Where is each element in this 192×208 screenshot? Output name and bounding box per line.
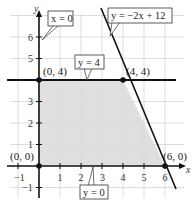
callout-label: x = 0: [51, 13, 73, 24]
point-0-0: [36, 163, 42, 169]
point-4-4: [120, 77, 126, 83]
tick-y-3: 3: [28, 96, 33, 107]
callout-label: y = 4: [78, 57, 100, 68]
label-point-0-4: (0, 4): [43, 65, 67, 78]
x-axis-arrow-icon: [179, 163, 186, 169]
tick-y-neg1: −1: [22, 182, 33, 193]
callout-y-equals-neg2x-plus-12: y = −2x + 12: [108, 8, 172, 36]
tick-y-5: 5: [28, 53, 33, 64]
callout-label: y = −2x + 12: [111, 10, 166, 21]
tick-y-6: 6: [28, 32, 33, 43]
y-axis-label: y: [33, 3, 39, 14]
tick-y-2: 2: [28, 118, 33, 129]
tick-x-6: 6: [163, 172, 168, 183]
tick-x-3: 3: [100, 172, 105, 183]
tick-x-2: 2: [79, 172, 84, 183]
label-point-4-4: (4, 4): [126, 65, 150, 78]
point-6-0: [162, 163, 168, 169]
tick-x-1: 1: [58, 172, 63, 183]
x-axis-label: x: [185, 164, 191, 175]
tick-x-4: 4: [121, 172, 126, 183]
callout-label: y = 0: [83, 187, 105, 198]
callout-y-equals-4: y = 4: [75, 55, 104, 80]
point-0-4: [36, 77, 42, 83]
tick-y-1: 1: [28, 139, 33, 150]
label-point-0-0: (0, 0): [10, 150, 34, 163]
tick-x-5: 5: [142, 172, 147, 183]
linear-programming-graph: −1 1 2 3 4 5 6 −1 1 2 3 5 6 y x (0, 4) (…: [0, 0, 192, 208]
label-point-6-0: (6, 0): [163, 150, 187, 163]
